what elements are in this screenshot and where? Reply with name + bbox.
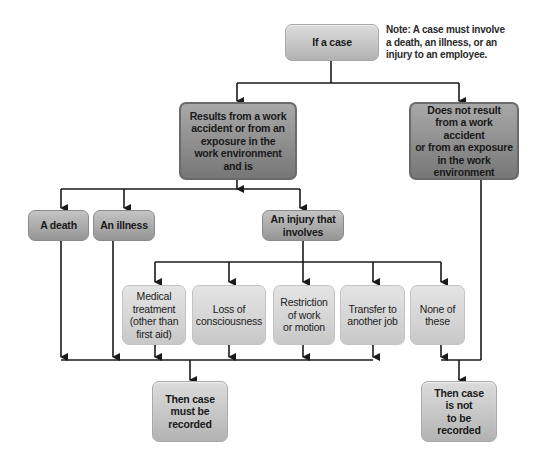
node-label: Then case must be recorded <box>165 393 215 431</box>
node-label: A death <box>40 219 77 232</box>
node-loss-of-consciousness: Loss of consciousness <box>192 285 266 345</box>
node-label: Then case is not to be recorded <box>434 387 484 437</box>
node-label: Medical treatment (other than first aid) <box>130 290 179 340</box>
node-label: An illness <box>100 219 148 232</box>
node-label: Results from a work accident or from an … <box>190 110 287 173</box>
node-label: Loss of consciousness <box>196 303 262 328</box>
node-death: A death <box>28 210 89 241</box>
node-label: If a case <box>312 36 352 49</box>
node-must-be-recorded: Then case must be recorded <box>152 381 228 442</box>
node-label: Transfer to another job <box>347 303 397 328</box>
node-if-a-case: If a case <box>285 24 379 61</box>
node-label: None of these <box>420 303 455 328</box>
node-not-recorded: Then case is not to be recorded <box>421 381 497 442</box>
node-label: An injury that involves <box>271 213 336 238</box>
node-injury: An injury that involves <box>262 210 344 241</box>
node-none-of-these: None of these <box>410 285 465 345</box>
node-restriction: Restriction of work or motion <box>273 285 335 345</box>
node-transfer: Transfer to another job <box>340 285 405 345</box>
node-work-related: Results from a work accident or from an … <box>179 102 297 180</box>
node-illness: An illness <box>93 210 155 241</box>
node-label: Does not result from a work accident or … <box>414 104 514 179</box>
node-medical-treatment: Medical treatment (other than first aid) <box>122 285 186 345</box>
note-text: Note: A case must involve a death, an il… <box>386 24 545 62</box>
flowchart: If a case Note: A case must involve a de… <box>0 0 545 464</box>
node-label: Restriction of work or motion <box>280 296 327 334</box>
node-not-work-related: Does not result from a work accident or … <box>409 102 519 180</box>
